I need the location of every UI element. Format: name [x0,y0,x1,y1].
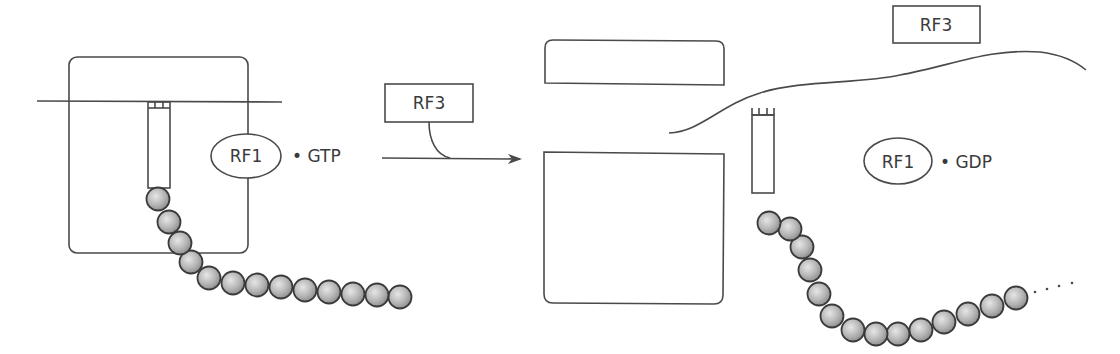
peptide-chain-right [758,212,1028,346]
rf1-gtp-complex: RF1 • GTP [211,134,341,178]
transition: RF3 [382,84,520,159]
diagram-canvas: RF1 • GTP RF3 RF3 [0,0,1120,354]
released-rf3-label: RF3 [920,15,952,35]
rf1-label-right: RF1 [882,152,914,172]
small-subunit-outline [545,40,724,85]
rf3-connector [429,122,450,158]
mrna-strand [669,51,1086,133]
continuation-dots-icon [1034,282,1074,294]
large-subunit-outline [544,152,724,304]
gdp-label: • GDP [940,152,992,172]
reaction-arrow-icon [382,158,520,159]
rf1-gdp-complex: RF1 • GDP [864,138,992,184]
rf3-label: RF3 [413,93,445,113]
right-panel: RF3 RF1 • GDP [544,6,1086,346]
rf1-label: RF1 [230,146,262,166]
trna-icon [148,102,170,188]
gtp-label: • GTP [292,146,341,166]
trna-icon-released [752,108,774,193]
peptide-chain-left [147,188,412,309]
left-panel: RF1 • GTP [37,57,412,309]
